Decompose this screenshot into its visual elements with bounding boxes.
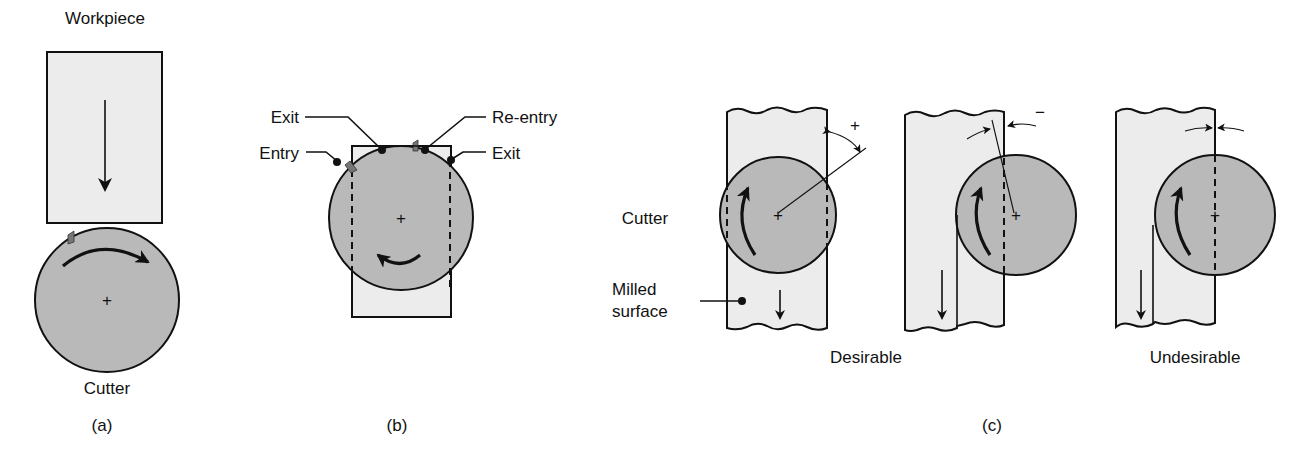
caption-a: (a) — [92, 416, 113, 435]
center-mark-icon: + — [773, 206, 783, 225]
re-entry-label: Re-entry — [492, 108, 558, 127]
angle-negative-symbol: − — [1035, 103, 1045, 122]
center-mark-icon: + — [396, 209, 406, 228]
exit-label: Exit — [492, 144, 521, 163]
leader-entry — [306, 152, 337, 161]
desirable-label: Desirable — [830, 348, 902, 367]
caption-c: (c) — [982, 416, 1002, 435]
cutter-label: Cutter — [622, 209, 669, 228]
undesirable-label: Undesirable — [1150, 348, 1241, 367]
workpiece-label: Workpiece — [65, 9, 145, 28]
angle-positive-symbol: + — [850, 116, 860, 135]
panel-b: + Exit Entry Re-entry Exit (b) — [259, 108, 557, 435]
panel-c-case-zero: + Undesirable — [1116, 108, 1275, 367]
angle-arrow-icon — [1218, 128, 1244, 131]
caption-b: (b) — [387, 416, 408, 435]
panel-c-case-positive: + + Cutter Milled surface — [612, 108, 866, 330]
leader-exit-left — [305, 117, 380, 148]
milled-surface-label: Milled — [612, 280, 656, 299]
milling-diagram: Workpiece + Cutter (a) + Exit Entry — [0, 0, 1302, 453]
panel-a: Workpiece + Cutter (a) — [35, 9, 179, 435]
milled-surface-label: surface — [612, 302, 668, 321]
cutter-tooth-icon — [68, 231, 74, 244]
center-mark-icon: + — [1210, 206, 1220, 225]
leader-re-entry — [427, 117, 486, 148]
center-mark-icon: + — [102, 291, 112, 310]
cutter-label: Cutter — [84, 379, 131, 398]
entry-label: Entry — [259, 144, 299, 163]
exit-label: Exit — [271, 108, 300, 127]
panel-c-case-negative: + − Desirable — [830, 103, 1076, 367]
angle-arrow-icon — [1008, 124, 1036, 126]
angle-arc-icon — [830, 132, 860, 152]
leader-exit-right — [452, 152, 486, 159]
